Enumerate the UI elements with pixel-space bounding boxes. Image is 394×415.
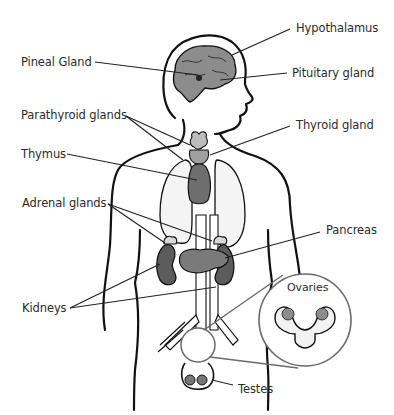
- label-parathyroid-glands: Parathyroid glands: [21, 108, 127, 122]
- label-kidneys: Kidneys: [22, 301, 67, 315]
- label-adrenal-glands: Adrenal glands: [22, 196, 106, 210]
- pelvis: [158, 315, 238, 362]
- label-pineal-gland: Pineal Gland: [21, 55, 92, 69]
- label-ovaries: Ovaries: [287, 281, 328, 295]
- brain: [174, 46, 236, 102]
- ovaries-inset: [204, 274, 351, 368]
- label-pancreas: Pancreas: [326, 223, 377, 237]
- label-hypothalamus: Hypothalamus: [296, 21, 378, 35]
- adrenal-glands: [164, 236, 227, 244]
- ovary-zoom-source: [181, 328, 215, 362]
- label-testes: Testes: [238, 382, 273, 396]
- label-pituitary-gland: Pituitary gland: [292, 66, 374, 80]
- testes: [182, 363, 214, 389]
- label-thyroid-gland: Thyroid gland: [296, 118, 374, 132]
- label-thymus: Thymus: [21, 147, 66, 161]
- thymus: [188, 164, 210, 204]
- pituitary-point: [196, 75, 202, 81]
- thyroid: [189, 132, 208, 164]
